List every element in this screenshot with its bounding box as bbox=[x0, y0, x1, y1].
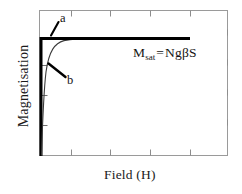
formula-expression: NgβS bbox=[165, 45, 197, 60]
saturation-formula-annotation: Msat=NgβS bbox=[133, 45, 197, 62]
curve-label-b: b bbox=[67, 73, 73, 88]
curve-label-a: a bbox=[60, 11, 66, 26]
formula-equals: = bbox=[155, 45, 165, 60]
curve-b-paramagnet bbox=[42, 38, 101, 155]
plot-canvas bbox=[0, 0, 242, 194]
top-axis-ticks bbox=[72, 11, 191, 17]
formula-subscript: sat bbox=[145, 52, 155, 62]
y-axis-title: Magnetisation bbox=[16, 21, 32, 151]
formula-symbol: M bbox=[133, 45, 145, 60]
x-axis-title: Field (H) bbox=[104, 167, 156, 183]
leader-line-a bbox=[51, 22, 59, 36]
magnetisation-vs-field-figure: Magnetisation Field (H) a b Msat=NgβS bbox=[0, 0, 242, 194]
leader-line-b bbox=[49, 64, 66, 78]
bottom-axis-ticks bbox=[72, 150, 191, 156]
